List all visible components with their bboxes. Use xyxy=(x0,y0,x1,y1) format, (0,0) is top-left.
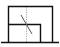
section-view-icon xyxy=(0,0,60,47)
section-view-graphic xyxy=(0,0,60,47)
